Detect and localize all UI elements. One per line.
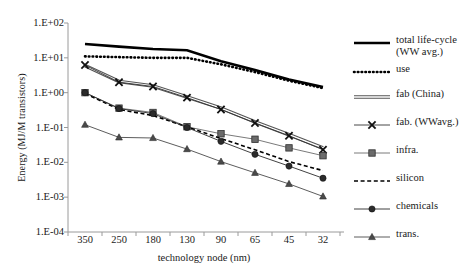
legend-key-none-icon	[352, 36, 392, 50]
data-point-circle	[116, 105, 122, 111]
legend-item[interactable]: use	[352, 65, 461, 79]
legend-label: use	[396, 63, 410, 75]
legend-label: trans.	[396, 228, 419, 240]
data-point-circle	[369, 206, 375, 212]
legend-key-circle-icon	[352, 202, 392, 216]
legend-key-none-icon	[352, 90, 392, 104]
legend-item[interactable]: silicon	[352, 174, 461, 188]
legend-label: chemicals	[396, 200, 438, 212]
legend-item[interactable]: fab. (WWavg.)	[352, 118, 461, 132]
x-axis-title: technology node (nm)	[68, 252, 340, 263]
chart-figure: Energy (MJ/M transistors) 1.E+021.E+011.…	[0, 0, 461, 274]
data-point-triangle	[82, 121, 89, 127]
legend-item[interactable]: trans.	[352, 230, 461, 244]
legend-item[interactable]: fab (China)	[352, 90, 461, 104]
legend-label: silicon	[396, 172, 424, 184]
data-point-circle	[286, 163, 292, 169]
data-point-triangle	[150, 134, 157, 140]
data-point-square	[218, 131, 224, 137]
legend-label: fab. (WWavg.)	[396, 116, 458, 128]
data-point-circle	[252, 151, 258, 157]
legend-key-x-icon	[352, 118, 392, 132]
legend-item[interactable]: chemicals	[352, 202, 461, 216]
series-infra	[82, 89, 326, 158]
legend-key-square-icon	[352, 146, 392, 160]
legend-label: infra.	[396, 144, 418, 156]
data-point-square	[252, 136, 258, 142]
data-point-square	[369, 150, 375, 156]
legend-label: fab (China)	[396, 88, 444, 100]
legend-item[interactable]: total life-cycle (WW avg.)	[352, 36, 461, 50]
x-tick-label: 32	[303, 234, 343, 245]
data-point-circle	[320, 175, 326, 181]
legend-key-none-icon	[352, 174, 392, 188]
data-point-circle	[150, 111, 156, 117]
legend-item[interactable]: infra.	[352, 146, 461, 160]
data-point-circle	[184, 124, 190, 130]
data-point-circle	[218, 138, 224, 144]
legend-key-triangle-icon	[352, 230, 392, 244]
data-point-circle	[82, 90, 88, 96]
data-point-triangle	[369, 233, 376, 239]
legend-label: total life-cycle (WW avg.)	[396, 34, 457, 57]
data-point-square	[320, 153, 326, 159]
legend-key-none-icon	[352, 65, 392, 79]
data-point-square	[286, 145, 292, 151]
